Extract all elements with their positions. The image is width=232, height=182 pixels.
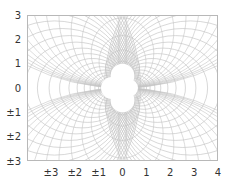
y-tick-label: ±3 bbox=[6, 156, 21, 167]
y-axis: 3210±1±2±3 bbox=[6, 10, 21, 167]
y-tick-label: ±2 bbox=[6, 131, 21, 142]
y-tick-label: ±1 bbox=[6, 107, 21, 118]
x-tick-label: 2 bbox=[167, 167, 173, 178]
x-axis: ±3±2±101234 bbox=[44, 167, 222, 178]
contour-chart: ±3±2±101234 3210±1±2±3 bbox=[0, 0, 232, 182]
x-tick-label: ±1 bbox=[91, 167, 106, 178]
y-tick-label: 2 bbox=[15, 34, 21, 45]
x-tick-label: ±2 bbox=[67, 167, 82, 178]
excluded-circle bbox=[101, 77, 122, 99]
x-tick-label: 1 bbox=[143, 167, 149, 178]
y-tick-label: 1 bbox=[15, 58, 21, 69]
x-tick-label: 4 bbox=[215, 167, 221, 178]
y-tick-label: 3 bbox=[15, 10, 21, 21]
x-tick-label: 0 bbox=[119, 167, 125, 178]
excluded-circle bbox=[121, 79, 138, 96]
x-tick-label: ±3 bbox=[44, 167, 59, 178]
x-tick-label: 3 bbox=[191, 167, 197, 178]
y-tick-label: 0 bbox=[15, 83, 21, 94]
